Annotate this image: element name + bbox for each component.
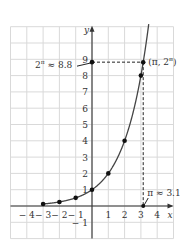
x-tick-label: − 3: [35, 210, 51, 220]
y-tick-label: 4: [82, 136, 88, 146]
data-point: [41, 202, 46, 207]
exponential-graph: xy − 4− 3− 2− 11234− 1123456789 (π, 2π)2…: [0, 0, 189, 251]
y-callout-label: 2π ≈ 8.8: [35, 58, 73, 70]
y-axis-label: y: [83, 25, 90, 35]
data-point: [122, 139, 127, 144]
data-point: [73, 196, 78, 201]
data-points: [41, 60, 146, 208]
point-label: (π, 2π): [148, 55, 176, 67]
y-tick-label: 6: [82, 104, 88, 114]
x-tick-label: 3: [138, 210, 144, 220]
x-tick-label: 4: [154, 210, 160, 220]
data-point: [90, 187, 95, 192]
x-callout-pointer: [144, 198, 148, 205]
x-tick-label: − 2: [51, 210, 67, 220]
data-point: [141, 60, 146, 65]
x-tick-label: 1: [105, 210, 111, 220]
y-tick-label: 7: [82, 87, 88, 97]
data-point: [57, 200, 62, 205]
data-point: [139, 73, 144, 78]
x-axis-label: x: [168, 210, 173, 220]
y-tick-label: 8: [82, 71, 88, 81]
y-tick-label: 5: [82, 120, 88, 130]
y-tick-label: − 1: [72, 218, 88, 228]
x-tick-label: 2: [122, 210, 128, 220]
y-tick-label: 2: [82, 169, 88, 179]
x-axis-arrow-icon: [168, 204, 174, 209]
data-point: [106, 171, 111, 176]
y-intercept-marker: [90, 60, 95, 65]
y-tick-label: 3: [82, 153, 88, 163]
dashed-guides: [92, 62, 143, 206]
x-callout-label: π ≈ 3.1: [147, 188, 181, 198]
x-tick-label: − 4: [19, 210, 35, 220]
